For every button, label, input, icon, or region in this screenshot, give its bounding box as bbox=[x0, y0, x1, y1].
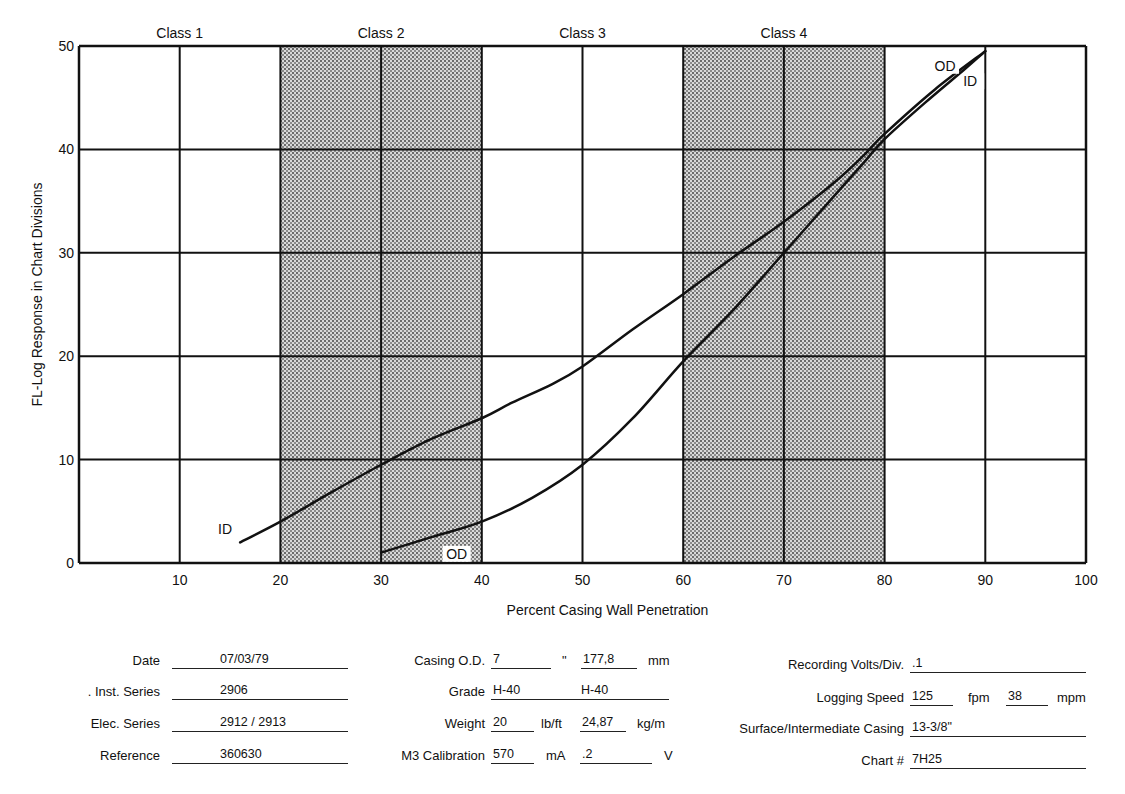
inst-series-label: . Inst. Series bbox=[40, 683, 160, 701]
mm-unit: mm bbox=[648, 652, 670, 670]
m3-v-value: .2 bbox=[580, 747, 652, 764]
casing-od-inch-value: 7 bbox=[491, 652, 551, 669]
surface-casing-value: 13-3/8" bbox=[910, 720, 1086, 737]
logging-speed-mpm-value: 38 bbox=[1006, 689, 1048, 706]
recording-volts-label: Recording Volts/Div. bbox=[690, 656, 904, 674]
grade-value: H-40 H-40 bbox=[491, 683, 669, 700]
weight-kg-value: 24,87 bbox=[580, 715, 626, 732]
weight-lb-value: 20 bbox=[491, 715, 534, 732]
reference-value: 360630 bbox=[172, 747, 348, 764]
casing-od-mm-value: 177,8 bbox=[581, 652, 637, 669]
mpm-unit: mpm bbox=[1057, 689, 1086, 707]
weight-label: Weight bbox=[340, 715, 485, 733]
logging-speed-fpm-value: 125 bbox=[910, 689, 953, 706]
date-label: Date bbox=[60, 652, 160, 670]
kg-m-unit: kg/m bbox=[637, 715, 665, 733]
recording-volts-value: .1 bbox=[910, 656, 1086, 673]
m3-ma-value: 570 bbox=[491, 747, 534, 764]
v-unit: V bbox=[664, 747, 673, 765]
lb-ft-unit: lb/ft bbox=[541, 715, 562, 733]
casing-od-label: Casing O.D. bbox=[340, 652, 485, 670]
surface-casing-label: Surface/Intermediate Casing bbox=[690, 720, 904, 738]
inch-unit: " bbox=[562, 652, 567, 670]
elec-series-label: Elec. Series bbox=[40, 715, 160, 733]
date-value: 07/03/79 bbox=[172, 652, 348, 669]
logging-speed-label: Logging Speed bbox=[690, 689, 904, 707]
chart-number-label: Chart # bbox=[690, 752, 904, 770]
chart-number-value: 7H25 bbox=[910, 752, 1086, 769]
log-info-form: Date 07/03/79 . Inst. Series 2906 Elec. … bbox=[0, 0, 1125, 794]
reference-label: Reference bbox=[40, 747, 160, 765]
ma-unit: mA bbox=[546, 747, 566, 765]
elec-series-value: 2912 / 2913 bbox=[172, 715, 348, 732]
grade-label: Grade bbox=[340, 683, 485, 701]
inst-series-value: 2906 bbox=[172, 683, 348, 700]
fpm-unit: fpm bbox=[968, 689, 990, 707]
m3-calibration-label: M3 Calibration bbox=[340, 747, 485, 765]
